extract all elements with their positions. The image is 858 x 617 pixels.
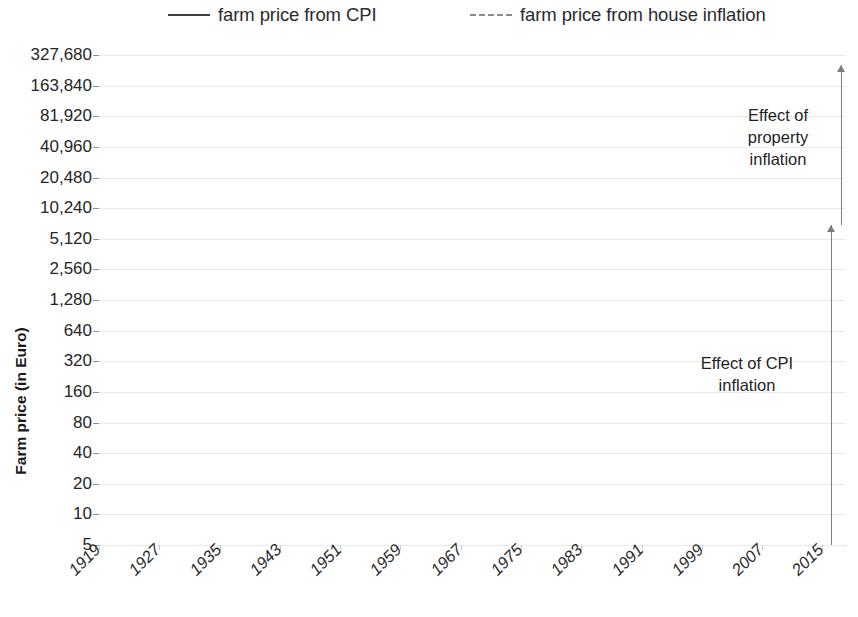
- x-axis-tick-label: 1935: [186, 540, 225, 579]
- x-axis-tick-label: 1967: [427, 540, 466, 579]
- cpi-inflation-arrow-head-icon: [827, 225, 835, 232]
- x-axis-tick-labels: 1919192719351943195119591967197519831991…: [0, 0, 858, 617]
- chart-figure: farm price from CPI farm price from hous…: [0, 0, 858, 617]
- property-inflation-arrow: [841, 65, 842, 225]
- annotation-effect-of-cpi-inflation: Effect of CPI inflation: [672, 352, 822, 396]
- property-inflation-arrow-head-icon: [837, 65, 845, 72]
- annotation-effect-of-property-inflation: Effect of property inflation: [718, 104, 838, 170]
- cpi-inflation-arrow: [831, 225, 832, 545]
